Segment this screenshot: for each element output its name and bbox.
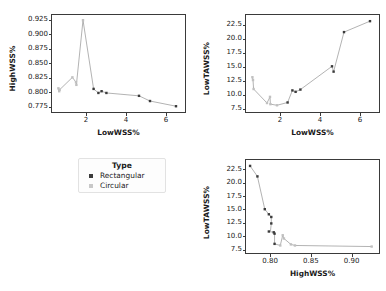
y-tick-label: 7.5: [211, 104, 242, 112]
data-point-marker: [299, 88, 301, 90]
data-point-marker: [71, 76, 73, 78]
data-point-marker: [370, 245, 372, 247]
panel2-data-layer: [246, 15, 379, 112]
panel1-y-axis-label: HighWSS%: [8, 39, 17, 99]
y-tick-label: 15.0: [211, 62, 242, 70]
panel3-plot-area: [245, 159, 380, 254]
panel2-x-axis-label: LowWSS%: [245, 128, 380, 137]
y-tick-label: 7.5: [211, 245, 242, 253]
panel3-data-layer: [246, 160, 379, 253]
data-point-marker: [105, 92, 107, 94]
figure-canvas: HighWSS% LowWSS% 0.7750.8000.8250.8500.8…: [0, 0, 386, 291]
panel1-x-axis-label: LowWSS%: [51, 128, 186, 137]
data-point-marker: [343, 31, 345, 33]
data-point-marker: [97, 92, 99, 94]
y-tick-label: 22.5: [211, 165, 242, 173]
y-tick-mark: [49, 20, 52, 21]
data-point-marker: [249, 165, 251, 167]
legend-item-rectangular[interactable]: Rectangular: [79, 170, 165, 180]
data-point-marker: [283, 237, 285, 239]
square-marker-icon: [87, 184, 94, 188]
data-point-marker: [332, 70, 334, 72]
data-point-marker: [273, 231, 275, 233]
y-tick-mark: [243, 53, 246, 54]
y-tick-mark: [243, 183, 246, 184]
panel3-x-axis-label: HighWSS%: [245, 269, 380, 278]
y-tick-mark: [49, 34, 52, 35]
data-point-marker: [291, 89, 293, 91]
data-point-marker: [282, 234, 284, 236]
x-tick-label: 2: [71, 116, 101, 124]
square-marker-icon: [87, 174, 94, 178]
data-point-marker: [92, 88, 94, 90]
y-tick-mark: [49, 49, 52, 50]
data-point-marker: [268, 213, 270, 215]
x-tick-label: 0.85: [296, 257, 326, 265]
y-tick-label: 12.5: [211, 76, 242, 84]
subplot-lowtawss-vs-highwss: LowTAWSS% HighWSS% 7.510.012.515.017.520…: [193, 146, 386, 291]
y-tick-label: 17.5: [211, 192, 242, 200]
data-point-marker: [175, 105, 177, 107]
data-point-marker: [286, 101, 288, 103]
y-tick-label: 22.5: [211, 20, 242, 28]
y-tick-label: 15.0: [211, 205, 242, 213]
data-point-marker: [270, 222, 272, 224]
y-tick-label: 10.0: [211, 90, 242, 98]
y-tick-mark: [49, 107, 52, 108]
y-tick-label: 20.0: [211, 178, 242, 186]
data-point-marker: [270, 216, 272, 218]
y-tick-mark: [49, 92, 52, 93]
series-line: [58, 20, 176, 106]
legend-item-circular[interactable]: Circular: [79, 180, 165, 190]
data-point-marker: [149, 100, 151, 102]
data-point-marker: [294, 91, 296, 93]
x-tick-mark: [360, 113, 361, 116]
data-point-marker: [252, 79, 254, 81]
x-tick-label: 6: [151, 116, 181, 124]
x-tick-mark: [311, 254, 312, 257]
data-point-marker: [290, 243, 292, 245]
y-tick-label: 12.5: [211, 218, 242, 226]
data-point-marker: [82, 19, 84, 21]
x-tick-mark: [280, 113, 281, 116]
legend-label-circular: Circular: [100, 181, 128, 190]
data-point-marker: [264, 208, 266, 210]
y-tick-label: 0.850: [17, 59, 48, 67]
y-tick-mark: [243, 81, 246, 82]
legend: Type Rectangular Circular: [78, 158, 166, 193]
y-tick-label: 0.775: [17, 102, 48, 110]
subplot-highwss-vs-lowwss: HighWSS% LowWSS% 0.7750.8000.8250.8500.8…: [0, 0, 193, 145]
y-tick-label: 0.900: [17, 30, 48, 38]
y-tick-label: 10.0: [211, 232, 242, 240]
subplot-lowtawss-vs-lowwss: LowTAWSS% LowWSS% 7.510.012.515.017.520.…: [193, 0, 386, 145]
y-tick-mark: [49, 78, 52, 79]
data-point-marker: [279, 244, 281, 246]
y-tick-label: 0.925: [17, 15, 48, 23]
data-point-marker: [294, 244, 296, 246]
data-point-marker: [269, 103, 271, 105]
legend-title: Type: [79, 159, 165, 170]
y-tick-mark: [243, 95, 246, 96]
y-tick-mark: [243, 109, 246, 110]
y-tick-mark: [243, 223, 246, 224]
x-tick-mark: [352, 254, 353, 257]
panel2-y-axis-label: LowTAWSS%: [202, 39, 211, 99]
panel3-y-axis-label: LowTAWSS%: [202, 183, 211, 243]
y-tick-label: 20.0: [211, 34, 242, 42]
x-tick-label: 0.90: [337, 257, 367, 265]
y-tick-label: 0.825: [17, 73, 48, 81]
y-tick-mark: [243, 39, 246, 40]
data-point-marker: [276, 104, 278, 106]
data-point-marker: [100, 90, 102, 92]
y-tick-mark: [49, 63, 52, 64]
data-point-marker: [251, 76, 253, 78]
data-point-marker: [252, 88, 254, 90]
panel1-data-layer: [52, 15, 185, 112]
y-tick-label: 0.875: [17, 44, 48, 52]
x-tick-mark: [270, 254, 271, 257]
x-tick-label: 2: [265, 116, 295, 124]
x-tick-mark: [126, 113, 127, 116]
legend-label-rectangular: Rectangular: [100, 171, 145, 180]
data-point-marker: [58, 89, 60, 91]
data-point-marker: [369, 20, 371, 22]
